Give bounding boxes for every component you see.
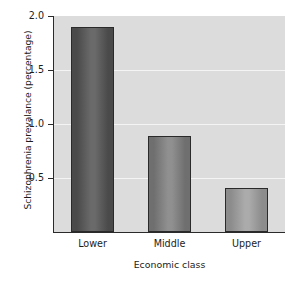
x-axis-tick-label: Upper	[208, 238, 285, 250]
bar-chart-figure: Schizophrenia prevalance (percentage) 0.…	[0, 0, 297, 282]
y-axis-tick-mark	[48, 16, 53, 17]
x-axis-spine	[53, 232, 285, 233]
bar	[225, 188, 268, 232]
y-axis-tick-label: 1.0	[4, 119, 44, 129]
y-axis-tick-label: 2.0	[4, 11, 44, 21]
y-axis-tick-mark	[48, 70, 53, 71]
y-axis-tick-mark	[48, 178, 53, 179]
y-axis-spine	[53, 16, 54, 233]
y-axis-tick-label: 0.5	[4, 173, 44, 183]
x-axis-tick-label: Lower	[54, 238, 131, 250]
x-axis-tick-label: Middle	[131, 238, 208, 250]
bar	[148, 136, 191, 232]
y-axis-tick-mark	[48, 124, 53, 125]
y-axis-tick-label: 1.5	[4, 65, 44, 75]
bar	[71, 27, 114, 232]
plot-area	[54, 16, 285, 232]
x-axis-title: Economic class	[54, 259, 285, 271]
